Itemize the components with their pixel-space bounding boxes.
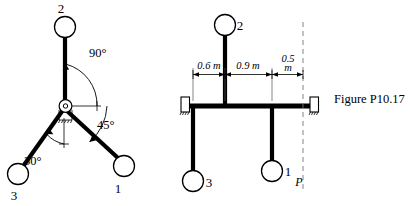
left-ball-2 xyxy=(55,17,76,38)
right-ball-2-label: 2 xyxy=(237,18,244,33)
dimension-arrow-left-3 xyxy=(297,72,303,76)
left-ball-3-label: 3 xyxy=(11,188,18,203)
dimension-arrow-right-2 xyxy=(272,72,278,76)
right-ball-3-label: 3 xyxy=(206,175,213,190)
left-ball-1 xyxy=(114,156,135,177)
right-ball-3 xyxy=(183,171,204,192)
figure-canvas: 2 1 3 90° 45° 30° xyxy=(0,0,411,206)
support-left xyxy=(180,97,190,115)
dimension-label-0-6: 0.6 m xyxy=(197,60,221,71)
angle-90-label: 90° xyxy=(89,46,107,60)
right-ball-2 xyxy=(215,15,236,36)
dimension-label-0-5-unit: m xyxy=(284,62,292,73)
left-ball-1-label: 1 xyxy=(115,181,122,196)
dimension-arrow-right-0 xyxy=(193,72,199,76)
angle-30-arc xyxy=(47,134,65,144)
right-ball-1 xyxy=(262,161,283,182)
left-ball-2-label: 2 xyxy=(58,1,65,16)
angle-90-arc xyxy=(66,64,98,106)
dimension-arrow-left-2 xyxy=(266,72,272,76)
support-right xyxy=(309,97,319,115)
right-diagram: P 0.6 m 0.9 m 0.5 m 2 3 1 xyxy=(180,15,319,192)
right-ball-1-label: 1 xyxy=(285,164,292,179)
angle-45-label: 45° xyxy=(97,118,115,132)
reference-line-p-label: P xyxy=(294,175,303,189)
figure-caption: Figure P10.17 xyxy=(334,92,405,106)
dimension-label-0-9: 0.9 m xyxy=(236,60,260,71)
angle-30-label: 30° xyxy=(24,154,42,168)
left-diagram: 2 1 3 90° 45° 30° xyxy=(8,1,135,203)
pivot-joint-center xyxy=(63,104,67,108)
figure-svg: 2 1 3 90° 45° 30° xyxy=(0,0,411,206)
